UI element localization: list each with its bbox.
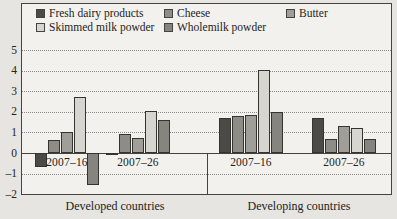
legend-swatch-icon bbox=[36, 9, 45, 18]
bar-skimmed-milk-powder-2007-26-g3 bbox=[351, 128, 363, 153]
group-label-developed-countries: Developed countries bbox=[20, 199, 210, 214]
bar-butter-2007-16-g2 bbox=[245, 115, 257, 153]
y-tick-label: 0 bbox=[0, 146, 17, 161]
bar-wholemilk-powder-2007-16-g2 bbox=[271, 112, 283, 153]
y-tick-label: 5 bbox=[0, 43, 17, 58]
legend-label: Wholemilk powder bbox=[177, 21, 266, 33]
y-tick-label: 4 bbox=[0, 63, 17, 78]
bar-cheese-2007-16-g2 bbox=[232, 116, 244, 153]
bar-butter-2007-26-g3 bbox=[338, 126, 350, 153]
dairy-production-growth-chart: Fresh dairy productsCheeseButterSkimmed … bbox=[0, 0, 397, 219]
y-tick-label: 2 bbox=[0, 104, 17, 119]
legend-item-fresh-dairy-products: Fresh dairy products bbox=[36, 7, 144, 21]
bar-wholemilk-powder-2007-26-g1 bbox=[158, 120, 170, 153]
legend-item-cheese: Cheese bbox=[164, 7, 210, 21]
bar-skimmed-milk-powder-2007-26-g1 bbox=[145, 111, 157, 153]
legend-label: Butter bbox=[299, 7, 328, 19]
period-label-g0: 2007–16 bbox=[27, 156, 107, 168]
gridline-y3 bbox=[22, 91, 391, 92]
bar-skimmed-milk-powder-2007-16-g0 bbox=[74, 97, 86, 153]
bar-butter-2007-16-g0 bbox=[61, 132, 73, 153]
legend-swatch-icon bbox=[164, 23, 173, 32]
period-label-g3: 2007–26 bbox=[304, 156, 384, 168]
bar-butter-2007-26-g1 bbox=[132, 138, 144, 153]
bar-fresh-dairy-products-2007-16-g2 bbox=[219, 118, 231, 153]
legend-item-skimmed-milk-powder: Skimmed milk powder bbox=[36, 21, 154, 35]
bar-cheese-2007-26-g1 bbox=[119, 134, 131, 153]
bar-cheese-2007-16-g0 bbox=[48, 140, 60, 153]
bar-fresh-dairy-products-2007-26-g1 bbox=[106, 153, 118, 155]
y-tick-label: –1 bbox=[0, 166, 17, 181]
chart-legend: Fresh dairy productsCheeseButterSkimmed … bbox=[22, 4, 391, 38]
bar-cheese-2007-26-g3 bbox=[325, 139, 337, 153]
legend-label: Skimmed milk powder bbox=[49, 21, 154, 33]
gridline-y5 bbox=[22, 50, 391, 51]
legend-label: Cheese bbox=[177, 7, 210, 19]
legend-label: Fresh dairy products bbox=[49, 7, 144, 19]
legend-swatch-icon bbox=[36, 23, 45, 32]
y-tick-label: 3 bbox=[0, 84, 17, 99]
legend-swatch-icon bbox=[164, 9, 173, 18]
period-label-g2: 2007–16 bbox=[211, 156, 291, 168]
country-group-separator bbox=[207, 153, 208, 194]
legend-swatch-icon bbox=[286, 9, 295, 18]
legend-item-butter: Butter bbox=[286, 7, 328, 21]
bar-wholemilk-powder-2007-26-g3 bbox=[364, 139, 376, 153]
bar-fresh-dairy-products-2007-26-g3 bbox=[312, 118, 324, 153]
period-label-g1: 2007–26 bbox=[98, 156, 178, 168]
gridline-y4 bbox=[22, 71, 391, 72]
y-tick-label: 1 bbox=[0, 125, 17, 140]
y-tick-label: –2 bbox=[0, 187, 17, 202]
plot-area: Fresh dairy productsCheeseButterSkimmed … bbox=[21, 3, 392, 195]
bar-skimmed-milk-powder-2007-16-g2 bbox=[258, 70, 270, 153]
group-label-developing-countries: Developing countries bbox=[204, 199, 394, 214]
legend-item-wholemilk-powder: Wholemilk powder bbox=[164, 21, 266, 35]
